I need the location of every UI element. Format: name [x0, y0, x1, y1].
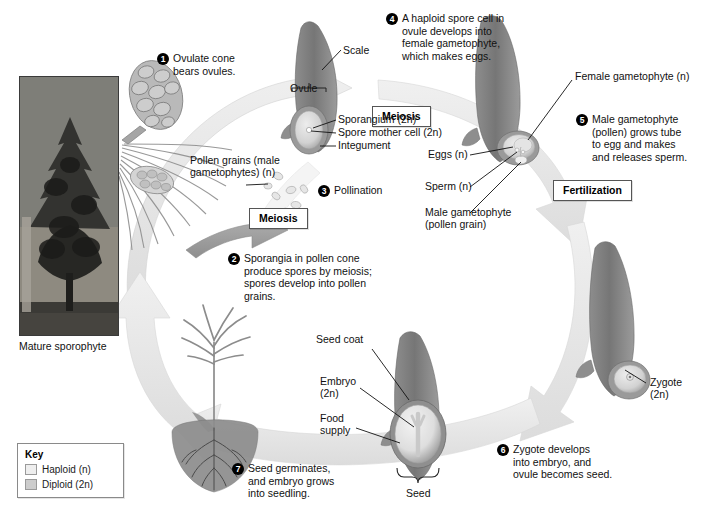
key-label-diploid: Diploid (2n): [42, 478, 93, 491]
step-4-text: A haploid spore cell in ovule develops i…: [402, 12, 504, 62]
label-seed: Seed: [406, 487, 431, 499]
step-3: 3 Pollination: [318, 184, 408, 197]
key-label-haploid: Haploid (n): [42, 463, 91, 476]
label-integument: Integument: [338, 139, 391, 151]
pine-tree-photo-svg: [20, 77, 119, 336]
step-2-text: Sporangia in pollen cone produce spores …: [244, 252, 372, 302]
label-sperm: Sperm (n): [425, 180, 472, 192]
step-5-text: Male gametophyte (pollen) grows tube to …: [592, 113, 687, 163]
step-3-text: Pollination: [334, 184, 382, 197]
pine-life-cycle-figure: Mature sporophyte Meiosis Meiosis Fertil…: [0, 0, 706, 523]
key-item-diploid: Diploid (2n): [25, 478, 117, 491]
label-zygote: Zygote (2n): [650, 376, 682, 401]
key-swatch-haploid: [25, 464, 37, 475]
step-5-number: 5: [576, 114, 588, 126]
step-4-number: 4: [386, 13, 398, 25]
step-6-text: Zygote develops into embryo, and ovule b…: [513, 443, 612, 481]
step-7-text: Seed germinates, and embryo grows into s…: [248, 462, 334, 500]
label-eggs: Eggs (n): [428, 148, 468, 160]
process-box-meiosis-left: Meiosis: [249, 208, 308, 229]
label-spore-mother-cell: Spore mother cell (2n): [338, 126, 442, 138]
process-box-fertilization: Fertilization: [553, 180, 632, 201]
label-embryo: Embryo (2n): [320, 375, 356, 400]
label-food-supply: Food supply: [320, 412, 350, 437]
step-6: 6 Zygote develops into embryo, and ovule…: [497, 443, 647, 481]
key-title: Key: [25, 449, 117, 460]
label-seed-coat: Seed coat: [316, 333, 363, 345]
key-swatch-diploid: [25, 479, 37, 490]
step-7: 7 Seed germinates, and embryo grows into…: [232, 462, 372, 500]
label-scale: Scale: [343, 44, 369, 56]
key-legend: Key Haploid (n) Diploid (2n): [17, 443, 124, 498]
mature-sporophyte-photo: [19, 76, 119, 336]
step-5: 5 Male gametophyte (pollen) grows tube t…: [576, 113, 702, 163]
step-1-number: 1: [157, 53, 169, 65]
step-3-number: 3: [318, 185, 330, 197]
mature-sporophyte-caption: Mature sporophyte: [19, 340, 107, 352]
step-2: 2 Sporangia in pollen cone produce spore…: [228, 252, 418, 302]
step-7-number: 7: [232, 463, 244, 475]
label-male-gametophyte: Male gametophyte (pollen grain): [425, 206, 540, 231]
label-ovule: Ovule: [290, 82, 317, 94]
step-6-number: 6: [497, 444, 509, 456]
step-1-text: Ovulate cone bears ovules.: [173, 52, 235, 77]
step-2-number: 2: [228, 253, 240, 265]
label-female-gametophyte: Female gametophyte (n): [575, 70, 689, 82]
label-sporangium: Sporangium (2n): [338, 113, 416, 125]
key-item-haploid: Haploid (n): [25, 463, 117, 476]
step-4: 4 A haploid spore cell in ovule develops…: [386, 12, 531, 62]
label-pollen-grains: Pollen grains (male gametophytes) (n): [190, 154, 310, 179]
step-1: 1 Ovulate cone bears ovules.: [157, 52, 287, 77]
